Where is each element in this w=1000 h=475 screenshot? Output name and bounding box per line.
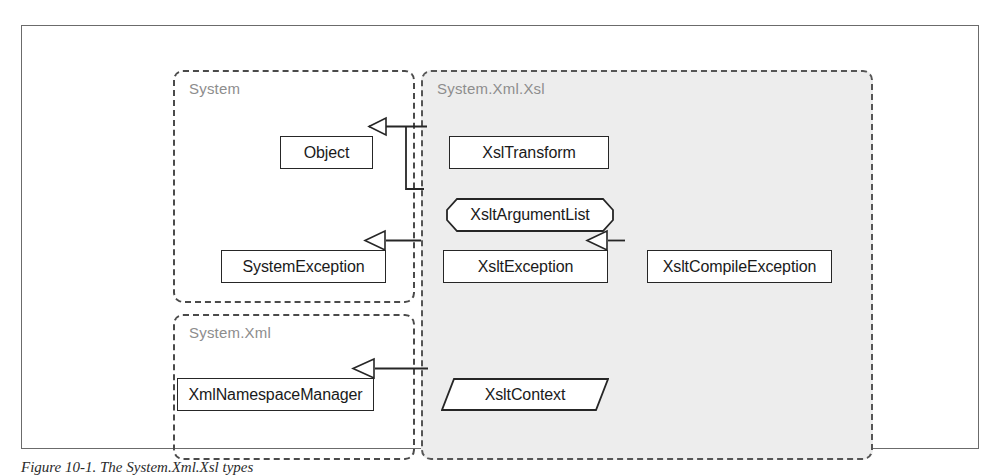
class-node-xsltransform[interactable]: XslTransform bbox=[449, 136, 609, 169]
class-node-xmlnamespacemanager[interactable]: XmlNamespaceManager bbox=[177, 378, 374, 411]
figure-root: System System.Xml System.Xml.Xsl |> Obje… bbox=[0, 0, 1000, 475]
class-node-xsltcontext[interactable]: XsltContext bbox=[441, 378, 609, 411]
class-node-xsltransform-label: XslTransform bbox=[482, 145, 575, 161]
package-system-xml-xsl-label: System.Xml.Xsl bbox=[437, 80, 545, 97]
class-node-xsltargumentlist[interactable]: XsltArgumentList bbox=[446, 198, 614, 232]
class-node-object[interactable]: Object bbox=[280, 136, 373, 169]
class-node-xsltargumentlist-label: XsltArgumentList bbox=[470, 207, 589, 223]
class-node-xsltexception-label: XsltException bbox=[478, 259, 574, 275]
class-node-xsltcontext-label: XsltContext bbox=[485, 387, 566, 403]
package-system-xml-label: System.Xml bbox=[189, 324, 271, 341]
class-node-object-label: Object bbox=[304, 145, 350, 161]
figure-frame: System System.Xml System.Xml.Xsl |> Obje… bbox=[21, 25, 979, 449]
class-node-xsltexception[interactable]: XsltException bbox=[443, 250, 608, 283]
class-node-xsltcompileexception-label: XsltCompileException bbox=[663, 259, 817, 275]
package-system-label: System bbox=[189, 80, 240, 97]
class-node-systemexception[interactable]: SystemException bbox=[221, 250, 386, 283]
class-node-xmlnamespacemanager-label: XmlNamespaceManager bbox=[188, 387, 362, 403]
class-node-xsltcompileexception[interactable]: XsltCompileException bbox=[647, 250, 832, 283]
figure-caption: Figure 10-1. The System.Xml.Xsl types bbox=[21, 459, 253, 475]
class-node-systemexception-label: SystemException bbox=[242, 259, 364, 275]
